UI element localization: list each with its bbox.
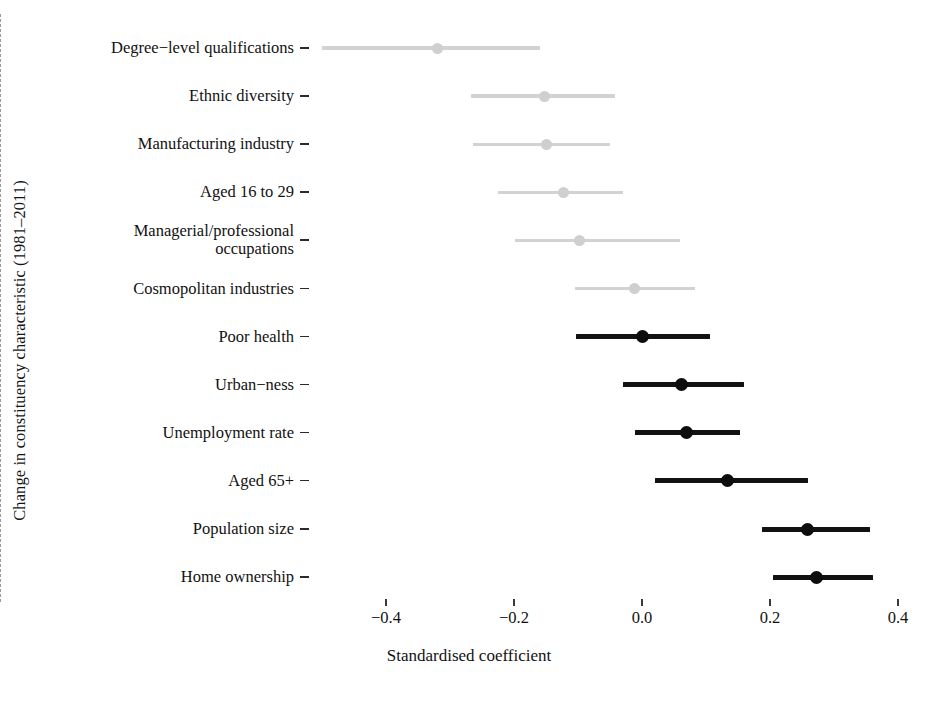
point-estimate-marker [574,235,585,246]
category-label: Degree−level qualifications [111,39,294,57]
category-axis-tick [300,47,309,49]
point-estimate-marker [541,139,552,150]
category-label: Unemployment rate [162,424,294,442]
point-estimate-marker [432,43,443,54]
category-axis-tick [300,239,309,241]
point-estimate-marker [801,523,814,536]
category-label: Cosmopolitan industries [133,280,294,298]
category-label: Aged 65+ [228,472,294,490]
confidence-interval-line [515,239,680,242]
category-label: Managerial/professional occupations [134,222,294,259]
category-axis-tick [300,288,309,290]
category-label: Manufacturing industry [138,135,294,153]
category-axis-tick [300,191,309,193]
x-axis-tick [385,599,386,606]
category-label: Population size [193,520,294,538]
category-axis-tick [300,384,309,386]
category-axis-tick [300,336,309,338]
x-axis-tick-label: 0.0 [632,608,653,628]
point-estimate-marker [675,378,688,391]
category-axis-tick [300,576,309,578]
category-axis-tick [300,432,309,434]
category-axis-tick [300,528,309,530]
point-estimate-marker [539,91,550,102]
point-estimate-marker [629,283,640,294]
category-axis-tick [300,480,309,482]
zero-reference-line [0,14,1,602]
x-axis-tick-label: 0.2 [760,608,781,628]
point-estimate-marker [680,426,693,439]
point-estimate-marker [558,187,569,198]
category-label: Aged 16 to 29 [200,183,294,201]
coefficient-plot-figure: Change in constituency characteristic (1… [0,0,938,701]
x-axis-tick [897,599,898,606]
x-axis-tick-label: −0.2 [499,608,529,628]
point-estimate-marker [636,330,649,343]
category-label: Urban−ness [215,376,294,394]
confidence-interval-line [322,46,540,49]
category-label: Home ownership [181,568,294,586]
category-label: Poor health [218,328,294,346]
category-axis-tick [300,95,309,97]
point-estimate-marker [721,474,734,487]
x-axis-tick-label: −0.4 [371,608,401,628]
x-axis-tick [513,599,514,606]
point-estimate-marker [810,571,823,584]
x-axis-tick [769,599,770,606]
x-axis-tick-label: 0.4 [888,608,909,628]
category-axis-tick [300,143,309,145]
x-axis-tick [641,599,642,606]
x-axis-title: Standardised coefficient [0,646,938,666]
plot-panel: Degree−level qualificationsEthnic divers… [0,0,938,701]
confidence-interval-line [773,575,873,580]
category-label: Ethnic diversity [189,87,294,105]
confidence-interval-line [762,527,870,532]
